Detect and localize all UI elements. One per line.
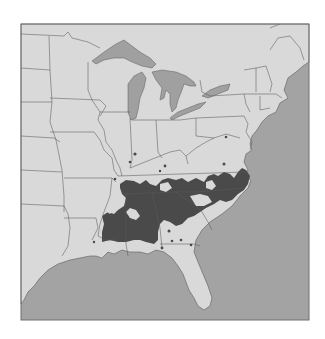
occurrence-point (161, 247, 164, 250)
range-map (0, 0, 325, 339)
occurrence-point (159, 170, 161, 172)
occurrence-point (133, 152, 136, 155)
occurrence-point (190, 244, 193, 247)
occurrence-point (93, 241, 95, 243)
occurrence-point (225, 136, 228, 139)
occurrence-point (146, 227, 148, 229)
occurrence-point (180, 239, 183, 242)
occurrence-point (223, 163, 226, 166)
occurrence-point (168, 230, 171, 233)
map-container (0, 0, 325, 339)
occurrence-point (164, 165, 167, 168)
occurrence-point (129, 161, 132, 164)
occurrence-point (171, 240, 174, 243)
occurrence-point (114, 178, 117, 181)
